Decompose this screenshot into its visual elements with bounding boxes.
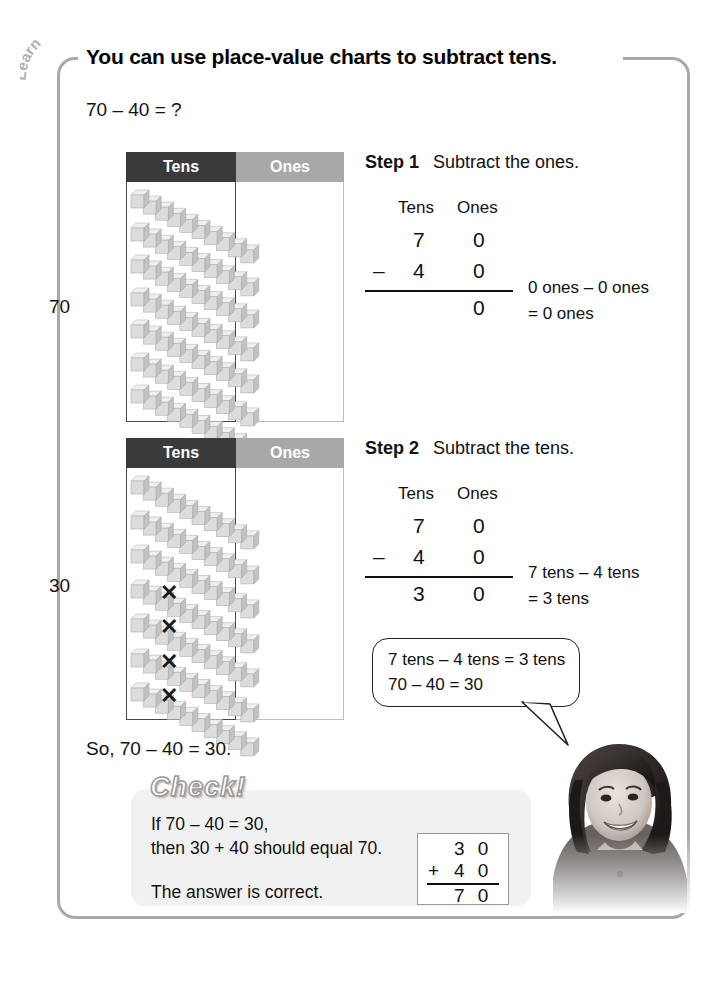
step-1-subtrahend-ones: 0 (473, 259, 485, 283)
step-1-subtrahend-tens: 4 (413, 259, 425, 283)
crossed-out-rod-marker: ✕ (160, 685, 178, 707)
check-line-3: The answer is correct. (151, 880, 323, 904)
chart-1-tens-cell (126, 182, 236, 422)
chart-1-header-row: Tens Ones (126, 152, 344, 182)
speech-bubble: 7 tens – 4 tens = 3 tens 70 – 40 = 30 (372, 638, 580, 707)
chart-2-tens-header: Tens (126, 438, 236, 468)
step-1-col-tens: Tens (398, 198, 434, 218)
step-1-vertical-subtraction: 7 0 – 4 0 0 (365, 228, 525, 338)
step-2-minuend-ones: 0 (473, 514, 485, 538)
step-2-note-line-1: 7 tens – 4 tens (528, 563, 640, 582)
step-2-minuend-tens: 7 (413, 514, 425, 538)
chart-1-tens-header: Tens (126, 152, 236, 182)
step-2-subtrahend-tens: 4 (413, 545, 425, 569)
svg-text:Learn: Learn (20, 35, 44, 81)
student-photo (545, 738, 695, 913)
step-2-result-tens: 3 (413, 582, 425, 606)
chart-1-ones-header: Ones (236, 152, 344, 182)
step-2-note-line-2: = 3 tens (528, 589, 589, 608)
step-1-minuend-tens: 7 (413, 228, 425, 252)
check-title: Check! (150, 772, 246, 803)
step-1-sum-rule (365, 290, 513, 292)
check-statement: If 70 – 40 = 30, then 30 + 40 should equ… (151, 812, 382, 860)
problem-expression: 70 – 40 = ? (86, 99, 182, 121)
check-line-1: If 70 – 40 = 30, (151, 814, 268, 834)
step-1-label: Step 1 (365, 152, 419, 172)
step-2-col-tens: Tens (398, 484, 434, 504)
page-title: You can use place-value charts to subtra… (86, 45, 557, 69)
step-2-subtrahend-ones: 0 (473, 545, 485, 569)
step-1-minuend-ones: 0 (473, 228, 485, 252)
check-addition-operator: + (428, 860, 439, 882)
check-addition-box: 3 0 + 4 0 7 0 (417, 833, 509, 905)
step-2-label: Step 2 (365, 438, 419, 458)
step-1-note-line-1: 0 ones – 0 ones (528, 278, 649, 297)
chart-2-tens-cell: ✕✕✕✕ (126, 468, 236, 720)
step-1-note-line-2: = 0 ones (528, 304, 594, 323)
step-2-operator: – (373, 545, 385, 569)
step-2-note: 7 tens – 4 tens = 3 tens (528, 560, 640, 611)
step-2-col-ones: Ones (457, 484, 498, 504)
step-1-result-ones: 0 (473, 296, 485, 320)
chart-1-row-label: 70 (49, 296, 70, 318)
step-2-instruction: Subtract the tens. (433, 438, 574, 458)
step-1-operator: – (373, 259, 385, 283)
check-addend-2: 4 0 (454, 860, 492, 882)
step-1-col-ones: Ones (457, 198, 498, 218)
step-2-result-ones: 0 (473, 582, 485, 606)
chart-2-header-row: Tens Ones (126, 438, 344, 468)
step-1-heading: Step 1Subtract the ones. (365, 152, 579, 173)
chart-2-row-label: 30 (49, 575, 70, 597)
speech-bubble-line-1: 7 tens – 4 tens = 3 tens (388, 650, 565, 669)
conclusion-line: So, 70 – 40 = 30. (86, 738, 231, 760)
crossed-out-rod-marker: ✕ (160, 616, 178, 638)
step-1: Step 1Subtract the ones. (365, 152, 579, 173)
step-2-heading: Step 2Subtract the tens. (365, 438, 574, 459)
step-2-sum-rule (365, 576, 513, 578)
crossed-out-rod-marker: ✕ (160, 582, 178, 604)
crossed-out-rod-marker: ✕ (160, 651, 178, 673)
chart-1-body (126, 182, 344, 422)
place-value-chart-1: Tens Ones (126, 152, 344, 422)
place-value-chart-2: Tens Ones ✕✕✕✕ (126, 438, 344, 720)
check-line-2: then 30 + 40 should equal 70. (151, 838, 382, 858)
check-addend-1: 3 0 (454, 838, 492, 860)
check-sum: 7 0 (454, 885, 492, 907)
step-1-instruction: Subtract the ones. (433, 152, 579, 172)
step-2-vertical-subtraction: 7 0 – 4 0 3 0 (365, 514, 525, 624)
step-1-note: 0 ones – 0 ones = 0 ones (528, 275, 649, 326)
speech-bubble-line-2: 70 – 40 = 30 (388, 675, 483, 694)
chart-2-body: ✕✕✕✕ (126, 468, 344, 720)
step-2: Step 2Subtract the tens. (365, 438, 574, 459)
chart-2-ones-header: Ones (236, 438, 344, 468)
